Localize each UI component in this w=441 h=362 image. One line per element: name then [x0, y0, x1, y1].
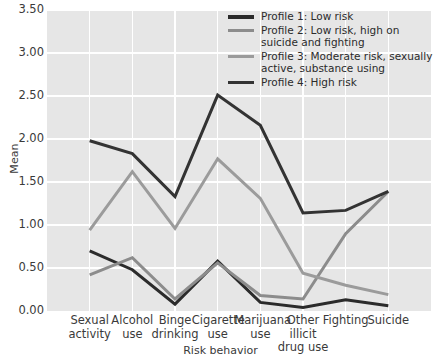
series-line-4 [90, 95, 389, 213]
legend-item-1[interactable]: Profile 1: Low risk [228, 10, 438, 23]
legend-label: Profile 4: High risk [261, 76, 357, 89]
line-chart: Mean 0.000.501.001.502.002.503.003.50 Se… [0, 0, 441, 362]
x-axis-title: Risk behavior [0, 344, 441, 357]
y-tick-label: 2.00 [2, 133, 44, 145]
y-tick-label: 3.50 [2, 4, 44, 16]
y-tick-label: 2.50 [2, 90, 44, 102]
legend-label: Profile 3: Moderate risk, sexually activ… [261, 50, 433, 75]
y-tick-label: 0.00 [2, 305, 44, 317]
y-axis-tick-labels: 0.000.501.001.502.002.503.003.50 [0, 0, 44, 362]
legend-item-4[interactable]: Profile 4: High risk [228, 76, 438, 89]
y-tick-label: 0.50 [2, 262, 44, 274]
legend-color-swatch [228, 55, 254, 59]
y-tick-label: 1.50 [2, 176, 44, 188]
legend-color-swatch [228, 81, 254, 85]
legend-color-swatch [228, 29, 254, 33]
legend-label: Profile 1: Low risk [261, 10, 353, 23]
legend: Profile 1: Low riskProfile 2: Low risk, … [228, 10, 438, 89]
y-tick-label: 3.00 [2, 47, 44, 59]
x-tick-label: Suicide [362, 314, 414, 328]
legend-item-3[interactable]: Profile 3: Moderate risk, sexually activ… [228, 50, 438, 75]
legend-item-2[interactable]: Profile 2: Low risk, high on suicide and… [228, 24, 438, 49]
y-tick-label: 1.00 [2, 219, 44, 231]
legend-color-swatch [228, 15, 254, 19]
series-line-3 [90, 159, 389, 295]
legend-label: Profile 2: Low risk, high on suicide and… [261, 24, 433, 49]
